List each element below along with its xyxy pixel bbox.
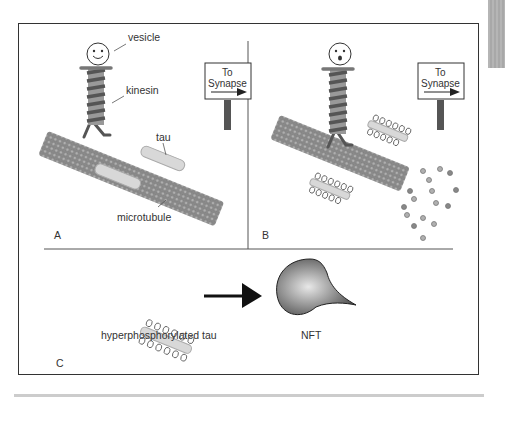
phospho-tau-b-2 [306, 171, 353, 207]
panel-a [38, 43, 251, 226]
kinesin-b [323, 68, 353, 134]
phospho-tau-b-1 [364, 113, 411, 149]
panel-c [136, 259, 356, 363]
sign-a-line2: Synapse [208, 78, 247, 89]
sign-b-line2: Synapse [421, 78, 460, 89]
kinesin-a [81, 67, 111, 125]
panel-a-label: A [54, 229, 61, 241]
page-edge-tab [488, 0, 505, 68]
conversion-arrow [204, 283, 262, 308]
vesicle-label: vesicle [128, 31, 160, 43]
tubulin-fragments [402, 167, 459, 241]
vesicle-surprised-face [329, 43, 351, 65]
nft-label: NFT [301, 329, 321, 341]
nft-shape [277, 259, 356, 315]
panel-b-label: B [262, 229, 269, 241]
vesicle-smiling-face [87, 43, 109, 65]
panel-c-label: C [56, 357, 64, 369]
hyperphosphorylated-tau-label: hyperphosphorylated tau [101, 329, 217, 341]
figure-frame: vesicle kinesin tau microtubule A To Syn… [18, 23, 479, 375]
figure-canvas [18, 23, 479, 375]
sign-b-line1: To [435, 67, 446, 78]
sign-a-line1: To [222, 67, 233, 78]
kinesin-label: kinesin [126, 84, 159, 96]
tau-label: tau [156, 131, 171, 143]
page-bottom-rule [14, 394, 484, 397]
microtubule-label: microtubule [117, 211, 171, 223]
